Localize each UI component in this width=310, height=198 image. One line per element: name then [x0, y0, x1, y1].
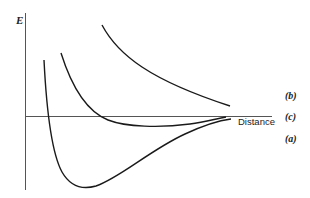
curve-b: [102, 25, 230, 106]
curve-a: [44, 60, 231, 187]
y-axis-label: E: [16, 14, 23, 26]
curve-label-a: (a): [285, 133, 297, 144]
energy-distance-diagram: E Distance (b) (c) (a): [0, 0, 310, 198]
curve-label-b: (b): [285, 90, 297, 101]
curve-label-c: (c): [285, 111, 296, 122]
diagram-svg: [0, 0, 310, 198]
x-axis-label: Distance: [238, 116, 275, 127]
curve-c: [61, 53, 226, 126]
